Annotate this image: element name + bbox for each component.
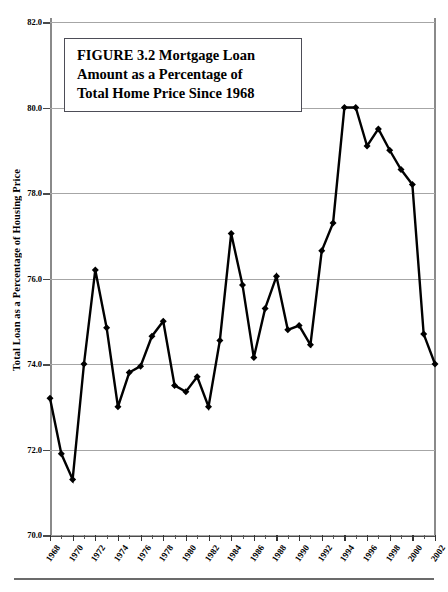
x-tick-mark-major (254, 535, 255, 541)
x-tick-mark-minor (152, 535, 153, 539)
y-axis-title-text: Total Loan as a Percentage of Housing Pr… (11, 169, 22, 371)
y-axis-title: Total Loan as a Percentage of Housing Pr… (6, 0, 26, 540)
x-tick-mark-major (231, 535, 232, 541)
data-point-marker (80, 361, 87, 368)
x-tick-mark-major (186, 535, 187, 541)
y-tick-mark (43, 450, 50, 452)
x-tick-label: 1974 (112, 543, 131, 563)
x-tick-mark-minor (243, 535, 244, 539)
x-tick-mark-minor (107, 535, 108, 539)
y-tick-label: 82.0 (2, 17, 42, 27)
y-tick-label: 80.0 (2, 103, 42, 113)
data-point-marker (58, 450, 65, 457)
data-point-marker (228, 230, 235, 237)
data-point-marker (420, 331, 427, 338)
x-tick-mark-minor (129, 535, 130, 539)
figure-container: Total Loan as a Percentage of Housing Pr… (0, 0, 448, 592)
figure-title-line-2: Amount as a Percentage of (77, 65, 291, 84)
data-point-marker (352, 104, 359, 111)
data-point-marker (262, 305, 269, 312)
x-tick-mark-major (209, 535, 210, 541)
x-tick-label: 1990 (293, 543, 312, 563)
y-tick-label: 72.0 (2, 445, 42, 455)
x-tick-label: 1980 (180, 543, 199, 563)
y-tick-label: 70.0 (2, 530, 42, 540)
x-tick-label: 1986 (247, 543, 266, 563)
x-tick-label: 1992 (315, 543, 334, 563)
x-tick-mark-major (390, 535, 391, 541)
x-tick-mark-minor (84, 535, 85, 539)
x-tick-label: 2002 (429, 543, 448, 563)
x-tick-mark-minor (333, 535, 334, 539)
x-tick-mark-minor (401, 535, 402, 539)
x-tick-mark-major (367, 535, 368, 541)
x-tick-mark-minor (378, 535, 379, 539)
x-tick-mark-major (118, 535, 119, 541)
x-tick-mark-minor (220, 535, 221, 539)
page-divider-rule (14, 578, 434, 580)
data-point-marker (250, 354, 257, 361)
series-markers (47, 104, 439, 483)
y-tick-mark (43, 22, 50, 24)
x-tick-label: 2000 (406, 543, 425, 563)
x-tick-label: 1978 (157, 543, 176, 563)
data-point-marker (92, 266, 99, 273)
y-tick-label: 78.0 (2, 188, 42, 198)
x-tick-mark-major (322, 535, 323, 541)
x-tick-mark-major (299, 535, 300, 541)
data-point-marker (114, 403, 121, 410)
x-tick-label: 1998 (383, 543, 402, 563)
x-tick-mark-major (141, 535, 142, 541)
data-point-marker (205, 403, 212, 410)
figure-title-line-1: FIGURE 3.2 Mortgage Loan (77, 46, 291, 65)
x-tick-label: 1982 (202, 543, 221, 563)
x-tick-mark-minor (356, 535, 357, 539)
y-tick-label: 74.0 (2, 359, 42, 369)
data-point-marker (330, 219, 337, 226)
x-tick-label: 1970 (66, 543, 85, 563)
x-tick-label: 1968 (44, 543, 63, 563)
x-tick-mark-minor (197, 535, 198, 539)
x-tick-mark-major (276, 535, 277, 541)
x-tick-label: 1972 (89, 543, 108, 563)
data-point-marker (318, 247, 325, 254)
x-tick-mark-major (412, 535, 413, 541)
x-tick-label: 1996 (361, 543, 380, 563)
data-point-marker (103, 324, 110, 331)
figure-title-box: FIGURE 3.2 Mortgage Loan Amount as a Per… (64, 38, 302, 112)
series-polyline (50, 108, 435, 480)
x-tick-mark-major (50, 535, 51, 541)
data-point-marker (432, 361, 439, 368)
x-tick-label: 1976 (134, 543, 153, 563)
y-tick-mark (43, 535, 50, 537)
x-tick-mark-major (344, 535, 345, 541)
x-tick-label: 1984 (225, 543, 244, 563)
x-tick-mark-minor (61, 535, 62, 539)
x-tick-mark-major (95, 535, 96, 541)
data-point-marker (47, 395, 54, 402)
x-tick-mark-minor (288, 535, 289, 539)
figure-title-line-3: Total Home Price Since 1968 (77, 84, 291, 103)
x-tick-mark-major (73, 535, 74, 541)
x-tick-label: 1988 (270, 543, 289, 563)
x-tick-mark-major (163, 535, 164, 541)
y-tick-mark (43, 193, 50, 195)
x-tick-label: 1994 (338, 543, 357, 563)
data-point-marker (216, 337, 223, 344)
y-tick-mark (43, 108, 50, 110)
y-tick-mark (43, 364, 50, 366)
data-point-marker (341, 104, 348, 111)
x-tick-mark-minor (265, 535, 266, 539)
data-point-marker (69, 476, 76, 483)
x-tick-mark-minor (310, 535, 311, 539)
x-tick-mark-minor (175, 535, 176, 539)
x-tick-mark-minor (424, 535, 425, 539)
x-tick-mark-major (435, 535, 436, 541)
data-point-marker (239, 281, 246, 288)
y-tick-mark (43, 279, 50, 281)
data-point-marker (273, 273, 280, 280)
data-point-marker (284, 326, 291, 333)
y-tick-label: 76.0 (2, 274, 42, 284)
